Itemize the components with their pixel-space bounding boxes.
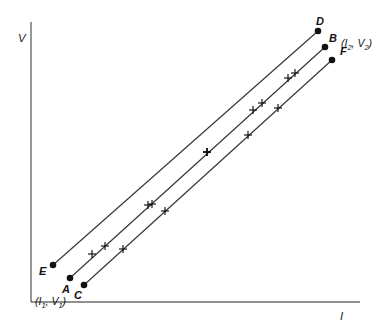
cross-marker-e-d-4 xyxy=(284,74,292,82)
endpoint-dot-b xyxy=(322,44,329,51)
endpoint-dot-e xyxy=(50,262,57,269)
iv-characteristic-plot xyxy=(0,0,391,333)
cross-markers-group xyxy=(88,69,299,258)
endpoint-dot-f xyxy=(329,57,336,64)
data-line-c-f xyxy=(84,60,332,285)
data-lines-group xyxy=(53,31,332,285)
endpoint-dot-d xyxy=(315,28,322,35)
data-line-e-d xyxy=(53,31,318,265)
point-label-d: D xyxy=(316,16,324,27)
cross-marker-e-d-3 xyxy=(249,106,257,114)
data-line-a-b xyxy=(70,47,325,278)
axes-group xyxy=(31,22,360,302)
coordinate-annotation-1: (I1, V1) xyxy=(35,296,66,310)
cross-marker-a-b-4 xyxy=(291,69,299,77)
endpoint-dot-a xyxy=(67,275,74,282)
endpoint-dot-c xyxy=(81,282,88,289)
x-axis-label: I xyxy=(340,311,343,323)
cross-marker-e-d-0 xyxy=(88,250,96,258)
cross-marker-c-f-3 xyxy=(244,131,252,139)
endpoint-dots-group xyxy=(50,28,336,289)
point-label-c: C xyxy=(74,290,82,301)
figure-container: V I ABCDEF (I1, V1)(I2, V2) xyxy=(0,0,391,333)
point-label-a: A xyxy=(62,284,70,295)
cross-marker-c-f-2 xyxy=(203,148,211,156)
coordinate-annotation-2: (I2, V2) xyxy=(341,38,372,52)
point-label-e: E xyxy=(39,266,46,277)
y-axis-label: V xyxy=(18,33,26,45)
cross-marker-e-d-1 xyxy=(144,201,152,209)
point-label-b: B xyxy=(329,33,337,44)
